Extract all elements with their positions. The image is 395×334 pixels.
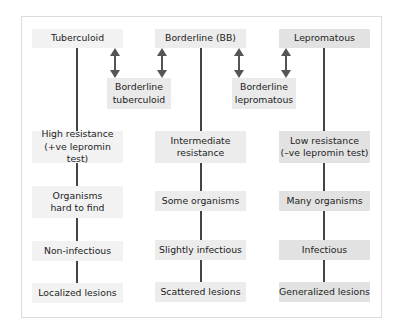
lepromatous-resistance: Low resistance (–ve lepromin test)	[279, 131, 370, 163]
double-arrow-icon	[234, 48, 244, 78]
tuberculoid-resistance: High resistance (+ve lepromin test)	[32, 131, 123, 163]
lepromatous-organisms: Many organisms	[279, 191, 370, 211]
borderline-organisms: Some organisms	[155, 191, 246, 211]
header-tuberculoid: Tuberculoid	[32, 29, 123, 48]
tuberculoid-infectivity: Non-infectious	[32, 241, 123, 261]
borderline-tuberculoid-box: Borderline tuberculoid	[107, 78, 171, 109]
borderline-infectivity: Slightly infectious	[155, 240, 246, 260]
tuberculoid-spine	[76, 47, 78, 299]
header-borderline-bb: Borderline (BB)	[155, 29, 246, 48]
borderline-lepromatous-box: Borderline lepromatous	[232, 78, 296, 109]
double-arrow-icon	[157, 48, 167, 78]
lepromatous-lesions: Generalized lesions	[279, 282, 370, 302]
double-arrow-icon	[110, 48, 120, 78]
borderline-resistance: Intermediate resistance	[155, 131, 246, 163]
header-lepromatous: Lepromatous	[279, 29, 370, 48]
borderline-lesions: Scattered lesions	[155, 282, 246, 302]
borderline-spine	[200, 47, 202, 299]
lepromatous-infectivity: Infectious	[279, 240, 370, 260]
tuberculoid-lesions: Localized lesions	[32, 283, 123, 303]
double-arrow-icon	[281, 48, 291, 78]
lepromatous-spine	[323, 47, 325, 299]
tuberculoid-organisms: Organisms hard to find	[32, 186, 123, 218]
